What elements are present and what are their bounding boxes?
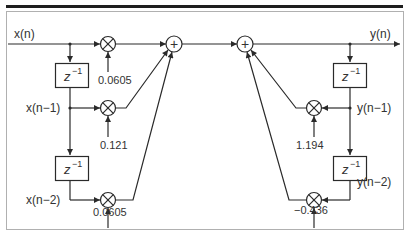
svg-text:−1: −1 [350,159,360,169]
coef-a2: −0.436 [294,204,328,216]
svg-text:z: z [341,162,349,177]
multiplier-b1 [101,101,116,116]
svg-text:z: z [63,162,71,177]
svg-text:z: z [63,69,71,84]
delay-box-x2: z −1 [56,157,89,181]
delay-box-y1: z −1 [334,64,367,88]
delay-box-x1: z −1 [56,64,89,88]
label-x-n: x(n) [14,27,35,41]
coef-b2: 0.0605 [93,206,127,218]
iir-filter-diagram: z −1 z −1 z −1 z −1 [0,0,410,238]
label-x-n-1: x(n−1) [26,101,60,115]
svg-text:−1: −1 [72,66,82,76]
top-rule [6,5,403,8]
label-y-n-1: y(n−1) [357,101,391,115]
label-y-n: y(n) [370,27,391,41]
label-y-n-2: y(n−2) [357,175,391,189]
multiplier-a1 [307,101,322,116]
multiplier-b0 [101,37,116,52]
coef-b1: 0.121 [100,139,128,151]
svg-text:−1: −1 [72,159,82,169]
svg-text:−1: −1 [350,66,360,76]
svg-text:z: z [341,69,349,84]
adder-1-symbol: + [170,36,178,52]
coef-a1: 1.194 [296,139,324,151]
label-x-n-2: x(n−2) [26,193,60,207]
adder-2-symbol: + [241,36,249,52]
coef-b0: 0.0605 [98,74,132,86]
